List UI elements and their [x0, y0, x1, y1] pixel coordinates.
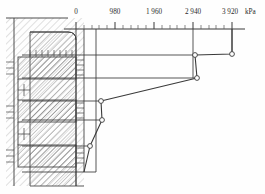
axis-unit-label: kPa: [245, 8, 257, 16]
axis-tick-label-0: 0: [74, 8, 78, 16]
axis-tick-label-1960: 1 960: [146, 8, 163, 16]
axis-tick-label-980: 980: [110, 8, 121, 16]
data-point: [230, 52, 235, 57]
diagram-svg: 0 980 1 960 2 940 3 920 kPa: [0, 0, 265, 194]
axis-major-ticks: [76, 22, 232, 29]
data-point: [88, 144, 93, 149]
data-point-markers: [88, 52, 235, 149]
data-point: [99, 99, 104, 104]
pressure-axis: 0 980 1 960 2 940 3 920 kPa: [64, 8, 257, 29]
data-point: [193, 53, 198, 58]
reference-verticals: [76, 29, 232, 186]
figure-canvas: 0 980 1 960 2 940 3 920 kPa: [0, 0, 265, 194]
pressure-distribution-curve: [84, 29, 232, 172]
axis-tick-label-3920: 3 920: [222, 8, 239, 16]
axis-tick-label-2940: 2 940: [185, 8, 202, 16]
data-point: [195, 76, 200, 81]
data-point: [100, 118, 105, 123]
